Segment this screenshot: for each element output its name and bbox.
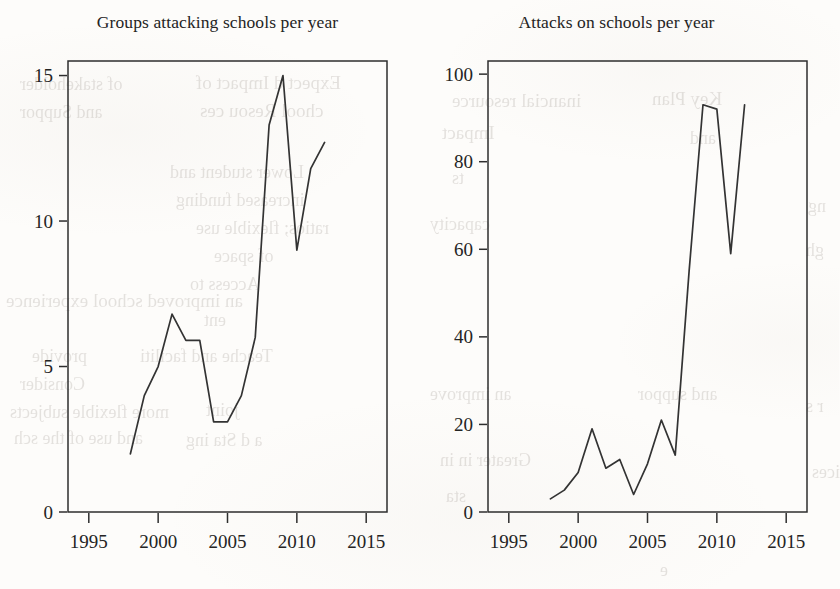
y-tick-label: 15 [34,65,53,86]
y-tick-label: 5 [44,356,54,377]
y-tick-label: 80 [454,151,473,172]
x-tick-label: 1995 [490,531,528,552]
y-tick-label: 0 [44,502,54,523]
y-tick-label: 60 [454,239,473,260]
x-tick-label: 2005 [209,531,247,552]
x-tick-label: 2015 [347,531,385,552]
data-series-line [550,105,744,499]
x-tick-label: 2005 [629,531,667,552]
chart-panel-attacks-on-schools: Attacks on schools per year 020406080100… [420,0,839,589]
plot-group: 05101519952000200520102015 [34,61,387,552]
chart-panel-groups-attacking-schools: Groups attacking schools per year 051015… [0,0,419,589]
plot-frame [488,61,807,512]
x-tick-label: 2000 [559,531,597,552]
x-tick-label: 2010 [698,531,736,552]
y-tick-label: 20 [454,414,473,435]
y-tick-label: 10 [34,211,53,232]
x-tick-label: 2000 [139,531,177,552]
data-series-line [130,76,324,454]
y-tick-label: 0 [464,502,474,523]
x-tick-label: 2010 [278,531,316,552]
plot-group: 02040608010019952000200520102015 [445,61,808,552]
x-tick-label: 1995 [70,531,108,552]
plot-frame [68,61,387,512]
y-tick-label: 100 [445,64,474,85]
chart-plot-groups-attacking-schools: 05101519952000200520102015 [0,0,419,589]
x-tick-label: 2015 [767,531,805,552]
y-tick-label: 40 [454,326,473,347]
chart-plot-attacks-on-schools: 02040608010019952000200520102015 [420,0,839,589]
